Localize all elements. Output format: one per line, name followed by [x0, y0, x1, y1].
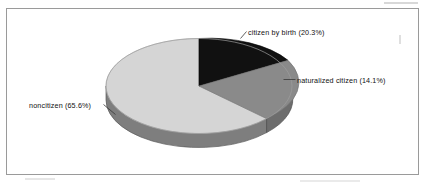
pie-label-naturalized-citizen: naturalized citizen (14.1%) [297, 76, 386, 85]
pie-label-noncitizen: noncitizen (65.6%) [29, 101, 91, 110]
scan-artifact [25, 178, 55, 180]
pie-chart-graphic [0, 0, 428, 184]
leader-line-citizen-by-birth [241, 32, 247, 39]
scan-artifact [300, 180, 360, 182]
pie-label-citizen-by-birth: citizen by birth (20.3%) [248, 28, 325, 37]
scan-artifact [399, 35, 401, 44]
scan-artifact [384, 2, 418, 4]
pie-chart-figure: citizen by birth (20.3%) naturalized cit… [0, 0, 428, 184]
chart-plot-area: citizen by birth (20.3%) naturalized cit… [0, 0, 428, 184]
